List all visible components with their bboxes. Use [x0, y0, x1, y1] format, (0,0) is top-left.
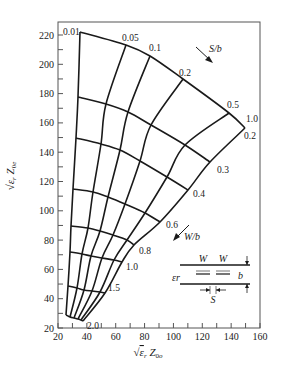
x-axis-label: √εr Z0o	[134, 346, 164, 360]
y-tick-label: 60	[44, 264, 54, 275]
w-over-b-label: 1.5	[108, 283, 120, 293]
s-over-b-label: 0.01	[63, 27, 80, 37]
y-tick-label: 160	[39, 117, 54, 128]
x-tick-label: 160	[253, 331, 268, 342]
x-tick-label: 20	[53, 331, 63, 342]
s-over-b-label: 0.2	[179, 68, 191, 78]
s-over-b-curve	[74, 56, 150, 318]
s-over-b-label: 0.1	[149, 43, 161, 53]
plot-frame	[58, 22, 260, 328]
s-over-b-label: 0.5	[227, 100, 239, 110]
y-tick-label: 180	[39, 88, 54, 99]
y-tick-label: 120	[39, 176, 54, 187]
w-over-b-label: 0.3	[217, 165, 229, 175]
x-tick-label: 100	[166, 331, 181, 342]
inset-label-epsilon-r: εr	[172, 272, 180, 283]
w-over-b-label: 0.8	[139, 246, 151, 256]
arrow-down-left-icon	[173, 233, 180, 241]
y-tick-label: 140	[39, 147, 54, 158]
s-over-b-label: 0.05	[122, 33, 139, 43]
w-over-b-curve	[71, 226, 134, 245]
inset-label-w1: W	[199, 253, 209, 264]
w-over-b-label: 1.0	[126, 262, 138, 272]
x-tick-label: 60	[111, 331, 121, 342]
svg-text:S/b: S/b	[209, 43, 222, 54]
w-over-b-curve	[78, 97, 210, 162]
w-over-b-label: 0.2	[244, 131, 256, 141]
x-tick-label: 40	[82, 331, 92, 342]
y-tick-label: 220	[39, 30, 54, 41]
w-over-b-label: 0.6	[166, 220, 178, 230]
impedance-grid-curves	[66, 32, 245, 321]
w-over-b-label: 2.0	[87, 321, 99, 331]
x-tick-label: 140	[224, 331, 239, 342]
y-axis-label: √εr Z0e	[4, 162, 18, 191]
y-tick-label: 20	[44, 323, 54, 334]
s-over-b-annotation: S/b	[196, 43, 222, 63]
s-over-b-curve	[78, 79, 183, 319]
curve-labels: 0.010.050.10.20.51.00.20.30.40.60.81.01.…	[63, 27, 258, 331]
y-tick-label: 200	[39, 59, 54, 70]
inset-label-b: b	[238, 270, 243, 281]
inset-label-w2: W	[219, 253, 229, 264]
y-tick-label: 100	[39, 205, 54, 216]
stripline-cross-section-inset: W W b εr S	[172, 253, 250, 305]
s-over-b-curve	[66, 32, 80, 315]
svg-text:√εr Z0e: √εr Z0e	[4, 162, 18, 191]
y-tick-label: 80	[44, 235, 54, 246]
svg-text:W/b: W/b	[184, 231, 200, 242]
y-tick-label: 40	[44, 293, 54, 304]
x-tick-label: 80	[140, 331, 150, 342]
coupled-stripline-impedance-chart: 2040608010012014016020406080100120140160…	[0, 0, 281, 371]
w-over-b-curve	[73, 189, 160, 222]
inset-label-s: S	[211, 294, 216, 305]
w-over-b-label: 0.4	[193, 189, 205, 199]
x-tick-label: 120	[195, 331, 210, 342]
s-over-b-label: 1.0	[246, 114, 258, 124]
